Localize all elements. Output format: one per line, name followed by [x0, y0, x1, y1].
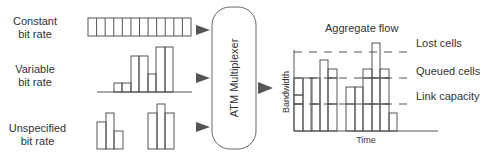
cbr-input-arrow — [196, 25, 210, 35]
vbr-bar — [156, 47, 165, 92]
aggregate-bar-segment — [328, 78, 337, 104]
ubr-input-arrow — [196, 122, 210, 132]
aggregate-bar-segment — [363, 104, 372, 131]
ubr-bar — [157, 104, 165, 149]
aggregate-chart — [294, 43, 438, 131]
aggregate-bar-segment — [363, 78, 372, 104]
aggregate-bar-segment — [294, 78, 303, 95]
aggregate-bar-segment — [355, 87, 363, 131]
ubr-bar — [114, 131, 123, 149]
aggregate-bar-segment — [328, 104, 337, 131]
vbr-input-arrow — [196, 73, 210, 83]
vbr-bar — [122, 83, 131, 92]
aggregate-bars — [294, 43, 397, 131]
aggregate-bar-segment — [380, 104, 389, 131]
mux-output-arrow — [258, 82, 273, 94]
aggregate-bar-segment — [363, 69, 372, 78]
aggregate-bar-segment — [372, 43, 380, 78]
ubr-bar — [148, 113, 157, 149]
aggregate-bar-segment — [372, 78, 380, 104]
cbr-cell-dividers — [97, 18, 183, 36]
aggregate-bar-segment — [320, 60, 328, 131]
vbr-bar — [139, 56, 148, 92]
queued-cells-label: Queued cells — [416, 65, 481, 77]
aggregate-bar-segment — [294, 95, 303, 104]
lost-cells-label: Lost cells — [416, 37, 462, 49]
ubr-bar — [165, 113, 174, 149]
aggregate-bar-segment — [380, 78, 389, 104]
aggregate-bar-segment — [328, 69, 337, 78]
ubr-bars — [97, 104, 174, 149]
aggregate-bar-segment — [380, 69, 389, 78]
aggregate-ylabel: Bandwidth — [281, 71, 291, 113]
link-capacity-label: Link capacity — [416, 90, 480, 102]
aggregate-xlabel: Time — [356, 135, 376, 145]
diagram-canvas: ATM Multiplexer Aggregate flow Bandwidth… — [0, 0, 492, 160]
aggregate-bar-segment — [294, 104, 303, 131]
vbr-bar — [165, 47, 173, 92]
ubr-bar — [106, 113, 114, 149]
aggregate-bar-segment — [346, 87, 355, 104]
vbr-bars — [97, 47, 192, 92]
aggregate-bar-segment — [389, 113, 397, 131]
aggregate-bar-segment — [346, 104, 355, 131]
vbr-bar — [114, 83, 122, 92]
multiplexer-label: ATM Multiplexer — [228, 38, 240, 117]
aggregate-bar-segment — [372, 104, 380, 131]
cbr-cell-train — [88, 18, 191, 36]
vbr-bar — [148, 74, 156, 92]
vbr-bar — [131, 56, 139, 92]
ubr-bar — [97, 122, 106, 149]
aggregate-title: Aggregate flow — [325, 22, 398, 34]
